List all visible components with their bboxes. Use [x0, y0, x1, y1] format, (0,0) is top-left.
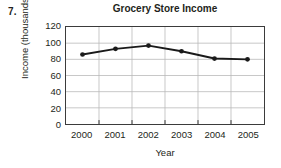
y-tick-label: 60	[37, 71, 61, 81]
data-point-marker	[80, 52, 85, 57]
problem-number: 7.	[8, 7, 17, 17]
plot-area	[65, 26, 265, 125]
y-axis-title: Income (thousands)	[18, 0, 32, 87]
y-axis-tick-labels: 020406080100120	[36, 26, 61, 125]
y-tick-label: 100	[37, 38, 61, 48]
data-point-marker	[146, 43, 151, 48]
series-line	[83, 46, 248, 60]
data-point-marker	[113, 46, 118, 51]
data-point-marker	[212, 56, 217, 61]
x-axis-tick-labels: 200020012002200320042005	[65, 130, 265, 144]
data-point-marker	[245, 57, 250, 62]
y-tick-label: 0	[37, 120, 61, 130]
y-tick-label: 120	[37, 21, 61, 31]
chart-figure: 7. Grocery Store Income Income (thousand…	[0, 0, 281, 168]
x-tick-label: 2005	[228, 130, 268, 140]
y-tick-label: 40	[37, 87, 61, 97]
chart-title: Grocery Store Income	[65, 4, 265, 14]
data-point-marker	[179, 49, 184, 54]
x-axis-title: Year	[65, 148, 265, 158]
data-series-line	[66, 27, 264, 124]
y-tick-label: 80	[37, 54, 61, 64]
y-tick-label: 20	[37, 104, 61, 114]
